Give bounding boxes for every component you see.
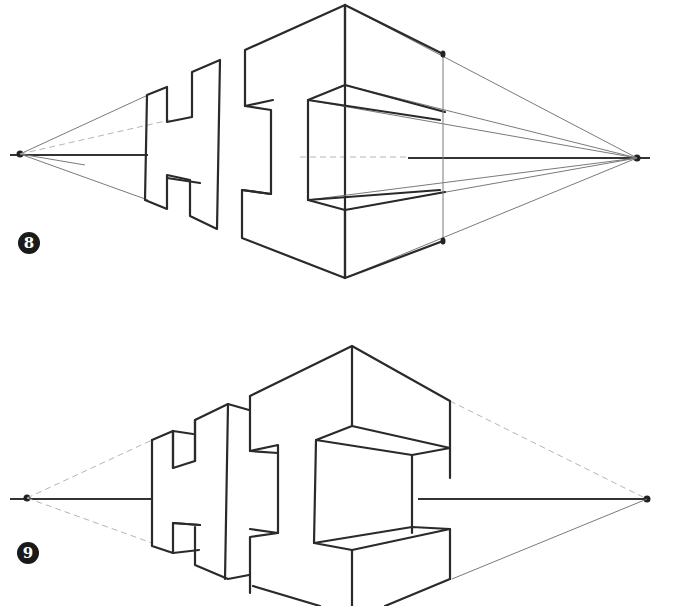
step-8-panel: 8 (0, 0, 684, 303)
step-8-badge: 8 (18, 232, 40, 254)
letter-i-front (242, 5, 345, 278)
letter-i-block (250, 346, 450, 606)
letter-h-block (152, 404, 249, 579)
step-9-drawing (0, 303, 684, 606)
step-9-badge: 9 (17, 542, 39, 564)
step-8-drawing (0, 0, 684, 303)
step-9-panel: 9 (0, 303, 684, 606)
letter-h (145, 60, 220, 229)
